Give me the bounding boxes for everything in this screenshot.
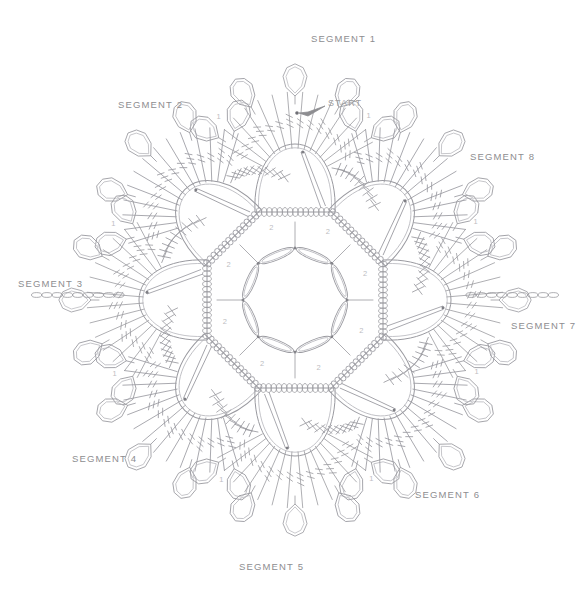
svg-text:1: 1: [475, 367, 479, 376]
segment-label-7: SEGMENT 7: [511, 320, 576, 331]
svg-text:1: 1: [367, 111, 371, 120]
svg-text:1: 1: [219, 475, 223, 484]
svg-text:2: 2: [227, 260, 231, 269]
svg-text:2: 2: [269, 223, 273, 232]
segment-label-1: SEGMENT 1: [311, 33, 376, 44]
svg-text:2: 2: [326, 227, 330, 236]
svg-text:1: 1: [369, 474, 373, 483]
segment-label-4: SEGMENT 4: [72, 453, 137, 464]
segment-label-6: SEGMENT 6: [415, 489, 480, 500]
svg-text:1: 1: [111, 219, 115, 228]
crochet-chart-svg: 1212121212121212: [0, 0, 587, 600]
segment-label-3: SEGMENT 3: [18, 278, 83, 289]
segment-label-2: SEGMENT 2: [118, 99, 183, 110]
svg-text:2: 2: [223, 317, 227, 326]
start-label: START: [328, 98, 362, 108]
svg-text:1: 1: [112, 369, 116, 378]
segment-label-8: SEGMENT 8: [470, 151, 535, 162]
svg-text:2: 2: [260, 359, 264, 368]
svg-text:1: 1: [217, 112, 221, 121]
svg-text:1: 1: [473, 217, 477, 226]
diagram-canvas: 1212121212121212 SEGMENT 1 SEGMENT 2 SEG…: [0, 0, 587, 600]
segment-label-5: SEGMENT 5: [239, 561, 304, 572]
svg-text:2: 2: [359, 326, 363, 335]
svg-text:2: 2: [317, 363, 321, 372]
svg-text:2: 2: [363, 269, 367, 278]
